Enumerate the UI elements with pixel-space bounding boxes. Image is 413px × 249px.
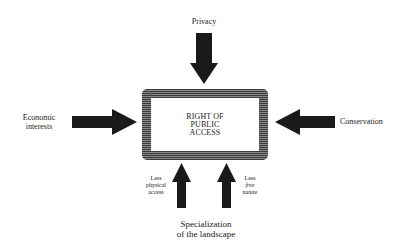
specialization-label-line-1: Specialization: [164, 219, 248, 229]
conservation-label: Conservation: [340, 117, 400, 126]
privacy-label: Privacy: [184, 17, 224, 26]
center-box-content: RIGHT OF PUBLIC ACCESS: [151, 98, 259, 151]
less-physical-access-line-1: Less: [138, 175, 174, 182]
less-physical-access-line-3: access: [138, 189, 174, 196]
right-of-public-access-box: RIGHT OF PUBLIC ACCESS: [142, 89, 268, 160]
less-physical-access-label: Less physical access: [138, 175, 174, 196]
conservation-label-text: Conservation: [340, 117, 383, 126]
less-free-nature-line-2: free: [236, 182, 264, 189]
less-free-nature-line-3: nature: [236, 189, 264, 196]
privacy-arrow-down-icon: [190, 33, 218, 84]
privacy-label-text: Privacy: [192, 17, 216, 26]
less-free-nature-label: Less free nature: [236, 175, 264, 196]
less-free-nature-arrow-up-icon: [217, 163, 236, 208]
less-physical-access-line-2: physical: [138, 182, 174, 189]
center-title-line-3: ACCESS: [190, 129, 221, 137]
less-physical-access-arrow-up-icon: [172, 163, 191, 208]
less-free-nature-line-1: Less: [236, 175, 264, 182]
specialization-label-line-2: of the landscape: [164, 229, 248, 239]
right-of-public-access-diagram: RIGHT OF PUBLIC ACCESS Privacy Economic …: [0, 0, 413, 249]
specialization-label: Specialization of the landscape: [164, 219, 248, 239]
conservation-arrow-left-icon: [275, 109, 335, 135]
economic-interests-label-line-1: Economic: [14, 113, 64, 122]
economic-interests-label: Economic interests: [14, 113, 64, 131]
economic-interests-label-line-2: interests: [14, 122, 64, 131]
economic-interests-arrow-right-icon: [72, 109, 137, 135]
